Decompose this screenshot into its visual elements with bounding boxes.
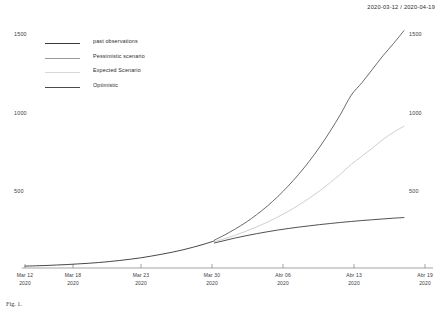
series-line-optimistic <box>214 218 403 243</box>
x-tick-mar-12-date: Mar 12 <box>17 272 33 278</box>
x-tick-mar-18: Mar 18 2020 <box>65 272 81 287</box>
legend-item-optimistic[interactable]: Optimistic <box>45 82 225 97</box>
x-axis <box>22 264 433 268</box>
x-tick-mar-12: Mar 12 2020 <box>17 272 33 287</box>
legend-label-pessimistic-scenario: Pessimistic scenario <box>93 53 145 59</box>
x-tick-mar-30-year: 2020 <box>204 280 220 288</box>
x-tick-abr-06: Abr 06 2020 <box>275 272 291 287</box>
series-line-pessimistic-scenario <box>214 31 403 240</box>
x-tick-abr-13: Abr 13 2020 <box>346 272 362 287</box>
legend-item-pessimistic-scenario[interactable]: Pessimistic scenario <box>45 53 225 68</box>
x-tick-abr-06-date: Abr 06 <box>275 272 291 278</box>
x-tick-mar-30-date: Mar 30 <box>204 272 220 278</box>
figure-caption: Fig. 1. <box>6 300 22 307</box>
x-tick-mar-23-date: Mar 23 <box>133 272 149 278</box>
legend-label-expected-scenario: Expected Scenario <box>93 67 141 73</box>
forecast-chart-figure: 2020-03-12 / 2020-04-19 1500 1000 500 15… <box>0 0 443 310</box>
x-tick-abr-19: Abr 19 2020 <box>417 272 433 287</box>
x-tick-abr-13-date: Abr 13 <box>346 272 362 278</box>
x-tick-mar-30: Mar 30 2020 <box>204 272 220 287</box>
x-tick-mar-23-year: 2020 <box>133 280 149 288</box>
x-tick-abr-19-year: 2020 <box>417 280 433 288</box>
x-tick-abr-13-year: 2020 <box>346 280 362 288</box>
series-line-past-observations <box>25 241 214 266</box>
figure-caption-strip: Fig. 1. <box>0 300 443 310</box>
legend-item-past-observations[interactable]: past observations <box>45 38 225 53</box>
chart-legend: past observations Pessimistic scenario E… <box>45 38 225 96</box>
x-tick-mar-23: Mar 23 2020 <box>133 272 149 287</box>
x-tick-abr-06-year: 2020 <box>275 280 291 288</box>
legend-swatch-pessimistic-scenario <box>45 58 80 59</box>
legend-label-past-observations: past observations <box>93 38 138 44</box>
legend-swatch-past-observations <box>45 43 80 44</box>
legend-swatch-optimistic <box>45 87 80 88</box>
x-tick-mar-18-year: 2020 <box>65 280 81 288</box>
x-axis-tick-marks <box>25 264 425 268</box>
x-tick-mar-12-year: 2020 <box>17 280 33 288</box>
x-tick-mar-18-date: Mar 18 <box>65 272 81 278</box>
legend-label-optimistic: Optimistic <box>93 82 118 88</box>
legend-item-expected-scenario[interactable]: Expected Scenario <box>45 67 225 82</box>
x-tick-abr-19-date: Abr 19 <box>417 272 433 278</box>
legend-swatch-expected-scenario <box>45 72 80 73</box>
